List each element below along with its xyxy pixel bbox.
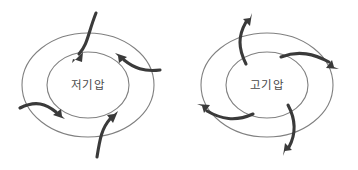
low-pressure-diagram: 저기압 <box>20 13 160 157</box>
diagram-canvas: 저기압 <box>0 0 358 170</box>
high-pressure-wind-arrow-left <box>197 104 253 119</box>
high-pressure-diagram: 고기압 <box>197 13 339 156</box>
low-pressure-wind-arrow-left <box>20 104 65 119</box>
pressure-system-figure: 저기압 <box>0 0 358 170</box>
low-pressure-wind-arrow-top <box>72 13 96 63</box>
high-pressure-label: 고기압 <box>250 78 284 92</box>
low-pressure-wind-arrow-right <box>115 53 160 71</box>
low-pressure-label: 저기압 <box>71 78 105 92</box>
high-pressure-wind-arrow-right <box>281 53 339 69</box>
low-pressure-wind-arrow-bottom <box>97 111 118 157</box>
